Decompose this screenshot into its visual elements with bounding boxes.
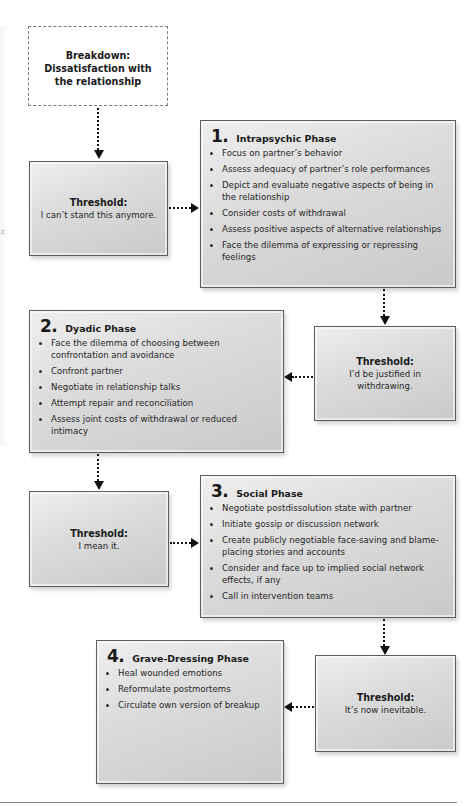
- list-item: Consider and face up to implied social n…: [207, 562, 447, 586]
- threshold-text: I can’t stand this anymore.: [41, 209, 157, 221]
- phase-number: 4.: [107, 648, 124, 665]
- list-item: Negotiate postdissolution state with par…: [207, 502, 447, 514]
- list-item: Face the dilemma of expressing or repres…: [207, 239, 447, 263]
- list-item: Negotiate in relationship talks: [36, 381, 275, 393]
- phase-box-4: 4. Grave-Dressing Phase Heal wounded emo…: [96, 640, 284, 784]
- list-item: Heal wounded emotions: [103, 667, 275, 679]
- connector-threshold-3-to-phase-3: [170, 542, 191, 544]
- phase-heading: 2. Dyadic Phase: [40, 318, 275, 335]
- list-item: Confront partner: [36, 365, 275, 377]
- phase-box-1: 1. Intrapsychic Phase Focus on partner’s…: [200, 120, 456, 288]
- threshold-box-1: Threshold: I can’t stand this anymore.: [29, 161, 168, 256]
- page-margin-strip: [0, 26, 8, 446]
- bottom-divider: [0, 802, 457, 803]
- arrow-down-icon: [380, 646, 390, 655]
- phase-heading: 1. Intrapsychic Phase: [211, 128, 447, 145]
- threshold-box-4: Threshold: It’s now inevitable.: [315, 655, 456, 752]
- phase-heading: 4. Grave-Dressing Phase: [107, 648, 275, 665]
- list-item: Call in intervention teams: [207, 590, 447, 602]
- list-item: Create publicly negotiable face-saving a…: [207, 534, 447, 558]
- arrow-down-icon: [94, 150, 104, 159]
- list-item: Depict and evaluate negative aspects of …: [207, 179, 447, 203]
- phase-number: 1.: [211, 128, 228, 145]
- breakdown-label: Breakdown: Dissatisfaction with the rela…: [44, 45, 151, 88]
- phase-box-2: 2. Dyadic Phase Face the dilemma of choo…: [29, 310, 284, 453]
- phase-item-list: Heal wounded emotions Reformulate postmo…: [103, 667, 275, 711]
- phase-box-3: 3. Social Phase Negotiate postdissolutio…: [200, 475, 456, 618]
- list-item: Circulate own version of breakup: [103, 699, 275, 711]
- threshold-box-2: Threshold: I’d be justified in withdrawi…: [314, 326, 456, 421]
- threshold-title: Threshold:: [70, 196, 128, 209]
- threshold-title: Threshold:: [356, 355, 414, 368]
- margin-text-fragment: c: [1, 229, 5, 236]
- phase-item-list: Negotiate postdissolution state with par…: [207, 502, 447, 602]
- list-item: Face the dilemma of choosing between con…: [36, 337, 275, 361]
- list-item: Assess joint costs of withdrawal or redu…: [36, 413, 275, 437]
- phase-number: 3.: [211, 483, 228, 500]
- list-item: Attempt repair and reconciliation: [36, 397, 275, 409]
- arrow-down-icon: [94, 481, 104, 490]
- phase-title: Social Phase: [236, 488, 303, 499]
- arrow-right-icon: [191, 203, 199, 213]
- connector-threshold-2-to-phase-2: [292, 376, 313, 378]
- threshold-text: I’d be justified in withdrawing.: [349, 368, 421, 392]
- connector-threshold-4-to-phase-4: [292, 706, 314, 708]
- list-item: Focus on partner’s behavior: [207, 147, 447, 159]
- list-item: Assess adequacy of partner’s role perfor…: [207, 163, 447, 175]
- phase-title: Dyadic Phase: [65, 323, 136, 334]
- phase-heading: 3. Social Phase: [211, 483, 447, 500]
- arrow-left-icon: [284, 372, 292, 382]
- connector-breakdown-to-threshold-1: [97, 108, 99, 150]
- connector-phase-2-to-threshold-3: [97, 454, 99, 481]
- threshold-title: Threshold:: [70, 527, 128, 540]
- list-item: Assess positive aspects of alternative r…: [207, 223, 447, 235]
- arrow-right-icon: [191, 538, 199, 548]
- arrow-left-icon: [284, 702, 292, 712]
- arrow-down-icon: [380, 316, 390, 325]
- phase-item-list: Face the dilemma of choosing between con…: [36, 337, 275, 437]
- threshold-text: I mean it.: [79, 540, 120, 552]
- list-item: Reformulate postmortems: [103, 683, 275, 695]
- threshold-text: It’s now inevitable.: [345, 704, 426, 716]
- connector-phase-3-to-threshold-4: [383, 619, 385, 646]
- phase-item-list: Focus on partner’s behavior Assess adequ…: [207, 147, 447, 263]
- connector-threshold-1-to-phase-1: [169, 207, 191, 209]
- phase-title: Intrapsychic Phase: [236, 133, 336, 144]
- phase-title: Grave-Dressing Phase: [132, 653, 249, 664]
- breakdown-box: Breakdown: Dissatisfaction with the rela…: [28, 26, 168, 106]
- list-item: Consider costs of withdrawal: [207, 207, 447, 219]
- phase-number: 2.: [40, 318, 57, 335]
- threshold-box-3: Threshold: I mean it.: [29, 491, 169, 587]
- connector-phase-1-to-threshold-2: [383, 289, 385, 316]
- list-item: Initiate gossip or discussion network: [207, 518, 447, 530]
- threshold-title: Threshold:: [357, 691, 415, 704]
